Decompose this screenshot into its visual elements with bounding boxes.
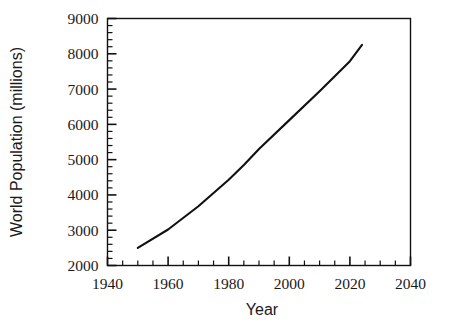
x-axis-tick-label: 1980 <box>213 275 244 292</box>
x-axis-tick-label: 2040 <box>395 275 426 292</box>
x-axis-tick-label: 2020 <box>334 275 365 292</box>
x-axis-tick-label: 2000 <box>274 275 305 292</box>
chart-figure: 2000300040005000600070008000900019401960… <box>0 0 471 325</box>
population-line-chart: 2000300040005000600070008000900019401960… <box>0 0 471 325</box>
y-axis-tick-label: 8000 <box>68 45 99 62</box>
y-axis-tick-label: 3000 <box>68 222 99 239</box>
y-axis-tick-label: 7000 <box>68 81 99 98</box>
y-axis-title: World Population (millions) <box>8 47 25 237</box>
y-axis-tick-label: 5000 <box>68 151 99 168</box>
x-axis-title: Year <box>246 301 279 318</box>
x-axis-tick-label: 1960 <box>153 275 184 292</box>
x-axis-tick-label: 1940 <box>92 275 123 292</box>
y-axis-tick-label: 9000 <box>68 10 99 27</box>
y-axis-tick-label: 2000 <box>68 257 99 274</box>
plot-background <box>108 19 411 266</box>
y-axis-tick-label: 4000 <box>68 186 99 203</box>
y-axis-tick-label: 6000 <box>68 116 99 133</box>
